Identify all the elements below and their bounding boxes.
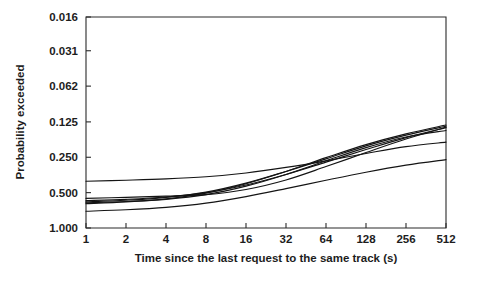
x-tick-label: 256 — [396, 233, 415, 245]
data-curve-trace-4 — [86, 125, 446, 204]
x-tick-label: 2 — [123, 233, 129, 245]
y-tick-label: 0.062 — [49, 80, 78, 92]
y-tick-label: 0.250 — [49, 151, 78, 163]
data-curve-trace-1 — [86, 127, 446, 198]
x-tick-label: 4 — [163, 233, 170, 245]
y-tick-label: 1.000 — [49, 222, 78, 234]
x-tick-label: 8 — [203, 233, 210, 245]
x-axis-title: Time since the last request to the same … — [135, 252, 398, 264]
x-axis-tick-labels: 1248163264128256512 — [83, 233, 456, 245]
y-tick-label: 0.016 — [49, 11, 78, 23]
y-tick-label: 0.500 — [49, 187, 78, 199]
x-axis-ticks — [86, 223, 446, 228]
x-tick-label: 1 — [83, 233, 90, 245]
x-tick-label: 64 — [320, 233, 333, 245]
chart-figure: 1248163264128256512 0.0160.0310.0620.125… — [0, 0, 480, 282]
y-axis-ticks — [86, 17, 91, 228]
y-tick-label: 0.031 — [49, 45, 78, 57]
plot-box — [86, 17, 446, 228]
y-tick-label: 0.125 — [49, 116, 78, 128]
chart-canvas: 1248163264128256512 0.0160.0310.0620.125… — [0, 0, 480, 282]
y-axis-title: Probability exceeded — [14, 64, 26, 179]
data-curve-trace-6 — [86, 142, 446, 181]
x-tick-label: 16 — [240, 233, 253, 245]
x-tick-label: 32 — [280, 233, 293, 245]
data-curves — [86, 125, 446, 211]
plot-frame — [86, 17, 446, 228]
x-tick-label: 512 — [436, 233, 455, 245]
y-axis-tick-labels: 0.0160.0310.0620.1250.2500.5001.000 — [49, 11, 78, 234]
x-tick-label: 128 — [356, 233, 376, 245]
